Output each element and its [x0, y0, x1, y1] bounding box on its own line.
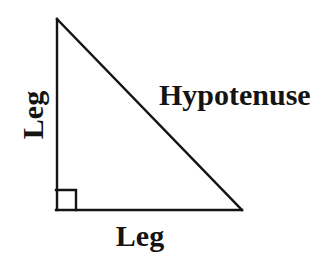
horizontal-leg-label: Leg	[116, 221, 164, 251]
diagram-canvas: Hypotenuse Leg Leg	[0, 0, 332, 265]
hypotenuse-line	[57, 19, 242, 210]
hypotenuse-label: Hypotenuse	[159, 80, 311, 110]
right-triangle-figure	[0, 0, 332, 265]
vertical-leg-label: Leg	[18, 91, 48, 139]
right-angle-square-icon	[56, 190, 76, 210]
